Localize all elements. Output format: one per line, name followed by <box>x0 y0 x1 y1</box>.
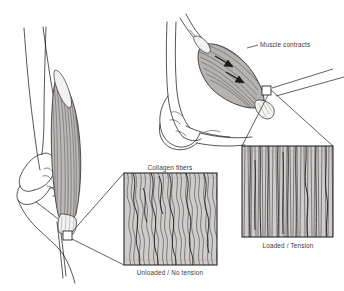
muscle-contracts-label: Muscle contracts <box>260 41 310 48</box>
unloaded-caption: Unloaded / No tension <box>137 269 204 276</box>
unloaded-fiber-inset <box>124 172 220 266</box>
right-callout-square <box>262 86 271 95</box>
collagen-fibers-label: Collagen fibers <box>148 164 193 172</box>
collagen-fiber-diagram: Collagen fibers Unloaded / No tension <box>0 0 344 291</box>
diagram-canvas: Collagen fibers Unloaded / No tension <box>0 0 344 291</box>
left-callout-square <box>63 231 72 240</box>
loaded-fiber-inset <box>242 145 333 238</box>
loaded-caption: Loaded / Tension <box>263 242 314 249</box>
